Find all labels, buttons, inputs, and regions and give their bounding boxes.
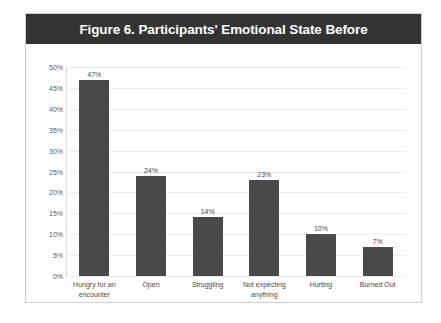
gridline xyxy=(66,276,406,277)
bar-rect xyxy=(136,176,166,276)
x-axis-tick-label: Struggling xyxy=(179,280,236,290)
y-axis-tick-label: 45% xyxy=(29,84,63,91)
x-axis-tick-label: Not expecting anything xyxy=(236,280,293,299)
y-axis-labels: 0%5%10%15%20%25%30%35%40%45%50% xyxy=(26,67,63,276)
bar-item: 7% xyxy=(349,67,406,276)
y-axis-tick-label: 25% xyxy=(29,168,63,175)
y-axis-tick-label: 35% xyxy=(29,126,63,133)
plot-area: 47%24%14%23%10%7% xyxy=(66,67,406,276)
figure-title-banner: Figure 6. Participants' Emotional State … xyxy=(26,14,421,44)
y-axis-tick-label: 40% xyxy=(29,105,63,112)
y-axis-tick-label: 50% xyxy=(29,64,63,71)
y-axis-tick-label: 30% xyxy=(29,147,63,154)
bar-value-label: 23% xyxy=(257,171,271,178)
bar-rect xyxy=(79,80,109,276)
bar-item: 14% xyxy=(179,67,236,276)
figure-container: Figure 6. Participants' Emotional State … xyxy=(25,13,422,303)
bar-rect xyxy=(363,247,393,276)
bar-item: 24% xyxy=(123,67,180,276)
bar-value-label: 14% xyxy=(201,208,215,215)
y-axis-tick-label: 15% xyxy=(29,210,63,217)
bar-rect xyxy=(193,217,223,276)
x-axis-labels: Hungry for an encounterOpenStrugglingNot… xyxy=(66,280,406,320)
bar-rect xyxy=(249,180,279,276)
bar-value-label: 24% xyxy=(144,167,158,174)
bar-value-label: 7% xyxy=(373,238,383,245)
bar-rect xyxy=(306,234,336,276)
y-axis-tick-label: 10% xyxy=(29,231,63,238)
y-axis-tick-label: 20% xyxy=(29,189,63,196)
x-axis-tick-label: Hurting xyxy=(293,280,350,290)
bar-item: 23% xyxy=(236,67,293,276)
bar-value-label: 47% xyxy=(87,71,101,78)
bar-item: 47% xyxy=(66,67,123,276)
bar-item: 10% xyxy=(293,67,350,276)
bar-value-label: 10% xyxy=(314,225,328,232)
y-axis-tick-label: 0% xyxy=(29,273,63,280)
chart-canvas: 0%5%10%15%20%25%30%35%40%45%50% 47%24%14… xyxy=(26,44,421,302)
page-title: Figure 6. Participants' Emotional State … xyxy=(79,22,367,37)
x-axis-tick-label: Open xyxy=(123,280,180,290)
x-axis-tick-label: Burned Out xyxy=(349,280,406,290)
x-axis-tick-label: Hungry for an encounter xyxy=(66,280,123,299)
y-axis-tick-label: 5% xyxy=(29,252,63,259)
